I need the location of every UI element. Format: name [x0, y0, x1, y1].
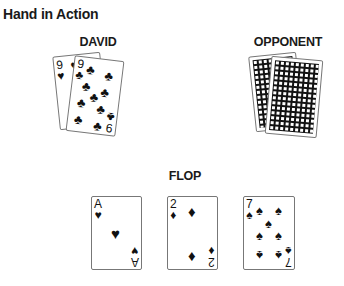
card-index: 9♣ — [105, 111, 115, 134]
spade-icon: ♠ — [275, 249, 282, 262]
card-back-pattern — [269, 60, 319, 134]
card-index: A♥ — [94, 199, 102, 221]
flop-card-7-spades: 7♠ ♠ ♠ ♠ ♠ ♠ ♠ ♠ 7♠ — [243, 196, 295, 270]
card-index: 9♥ — [56, 60, 65, 83]
diamond-icon: ♦ — [188, 249, 196, 262]
diamond-icon: ♦ — [170, 208, 176, 222]
diamond-icon: ♦ — [209, 244, 215, 258]
player-label-opponent: OPPONENT — [248, 35, 328, 49]
club-icon: ♣ — [104, 69, 114, 83]
spade-icon: ♠ — [275, 229, 282, 242]
player-label-david: DAVID — [70, 35, 126, 49]
heart-icon: ♥ — [94, 208, 101, 222]
club-icon: ♣ — [96, 102, 106, 116]
diamond-icon: ♦ — [188, 205, 196, 218]
flop-card-2-diamonds: 2♦ ♦ ♦ 2♦ — [167, 196, 218, 270]
david-card-9-clubs: 9♣ ♣ ♣ ♣ ♣ ♣ ♣ ♣ ♣ ♣ 9♣ — [66, 55, 125, 137]
spade-icon: ♠ — [256, 204, 263, 217]
heart-icon: ♥ — [57, 69, 66, 84]
card-index: A♥ — [131, 245, 139, 267]
card-index: 2♦ — [208, 245, 215, 267]
spade-icon: ♠ — [246, 208, 252, 222]
spade-icon: ♠ — [265, 217, 272, 230]
club-icon: ♣ — [106, 110, 116, 125]
card-index: 7♠ — [246, 199, 253, 221]
club-icon: ♣ — [85, 63, 95, 77]
club-icon: ♣ — [73, 113, 83, 127]
card-index: 7♠ — [285, 245, 292, 267]
card-index: 2♦ — [170, 199, 177, 221]
flop-card-ace-hearts: A♥ ♥ A♥ — [91, 196, 142, 270]
spade-icon: ♠ — [256, 249, 263, 262]
club-icon: ♣ — [100, 86, 110, 100]
spade-icon: ♠ — [256, 229, 263, 242]
spade-icon: ♠ — [275, 204, 282, 217]
board-label-flop: FLOP — [160, 169, 210, 183]
spade-icon: ♠ — [285, 244, 291, 258]
diagram-title: Hand in Action — [3, 6, 98, 22]
opponent-card-facedown-2 — [265, 56, 324, 138]
heart-icon: ♥ — [131, 244, 138, 258]
club-icon: ♣ — [76, 96, 86, 110]
club-icon: ♣ — [93, 119, 103, 133]
heart-icon: ♥ — [111, 227, 120, 240]
